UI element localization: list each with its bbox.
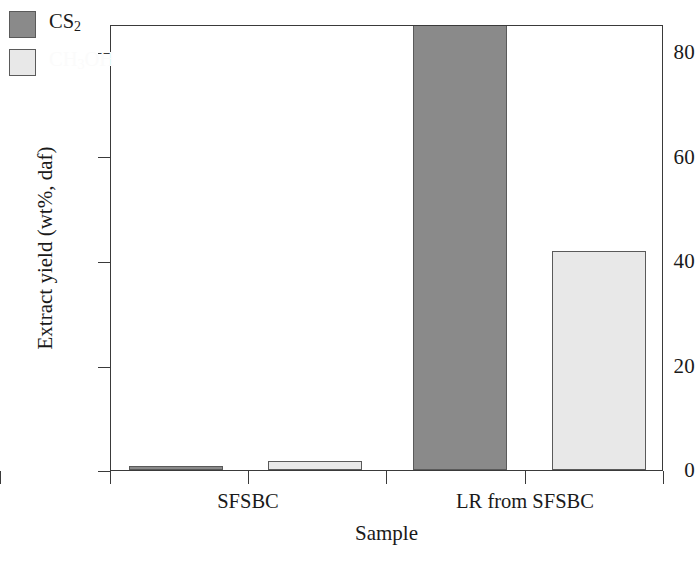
bar-lr-from-sfsbc-cs2: [413, 25, 507, 470]
legend-swatch-cs2: [9, 11, 36, 38]
legend-label-cs2-subscript: 2: [74, 19, 81, 34]
legend-label-ch3oh-main: CH: [49, 48, 77, 70]
y-tick-mark-60: [98, 157, 110, 158]
x-tick-mark-1: [248, 471, 249, 484]
x-tick-mark-right-edge: [663, 471, 664, 484]
y-tick-mark-20: [98, 367, 110, 368]
y-tick-mark-0: [98, 471, 110, 472]
legend-entry-ch3oh: CH3OH: [9, 43, 179, 81]
bar-sfsbc-ch3oh: [268, 461, 362, 470]
bar-chart-figure: 80 60 40 20 0 Extract yield (wt%, daf) S…: [0, 0, 695, 575]
x-tick-mark-3: [525, 471, 526, 484]
x-tick-mark-left-edge: [110, 471, 111, 484]
y-tick-mark-40: [98, 262, 110, 263]
legend: CS2 CH3OH: [9, 5, 179, 81]
legend-swatch-ch3oh: [9, 49, 36, 76]
plot-area: [110, 25, 663, 471]
y-axis-title: Extract yield (wt%, daf): [30, 25, 60, 471]
legend-label-cs2: CS2: [49, 10, 81, 38]
bar-sfsbc-cs2: [129, 466, 223, 470]
x-category-label-lr-from-sfsbc: LR from SFSBC: [456, 490, 594, 512]
legend-entry-cs2: CS2: [9, 5, 179, 43]
x-tick-mark-2: [386, 471, 387, 484]
bar-lr-from-sfsbc-ch3oh: [552, 251, 646, 470]
x-axis-title: Sample: [110, 521, 663, 545]
x-category-label-sfsbc: SFSBC: [217, 490, 279, 512]
legend-label-cs2-main: CS: [49, 10, 74, 32]
legend-label-ch3oh: CH3OH: [49, 48, 114, 76]
legend-label-ch3oh-tail: OH: [84, 48, 114, 70]
